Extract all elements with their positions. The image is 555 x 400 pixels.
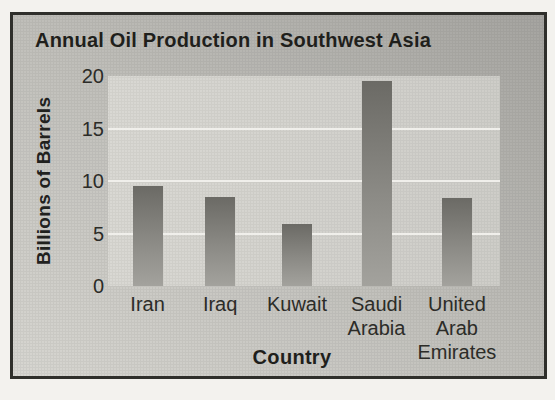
bar-kuwait [282,224,312,286]
bar-saudi-arabia [362,81,392,286]
gridline-10 [108,180,500,182]
x-label-iran: Iran [130,292,164,316]
bar-iran [133,186,163,286]
plot-area [108,76,500,286]
x-label-saudi-arabia: Saudi Arabia [348,292,406,340]
bar-iraq [205,197,235,286]
x-label-iraq: Iraq [203,292,237,316]
chart-card: Annual Oil Production in Southwest Asia … [10,12,547,379]
x-label-united-arab-emirates: United Arab Emirates [417,292,496,364]
gridline-15 [108,128,500,130]
y-tick-10: 10 [54,170,104,192]
y-tick-15: 15 [54,118,104,140]
y-tick-5: 5 [54,223,104,245]
y-tick-0: 0 [54,275,104,297]
scanned-chart-page: Annual Oil Production in Southwest Asia … [0,0,555,400]
x-axis-title: Country [253,346,332,369]
bar-united-arab-emirates [442,198,472,286]
chart-title: Annual Oil Production in Southwest Asia [35,29,431,52]
y-tick-20: 20 [54,65,104,87]
x-label-kuwait: Kuwait [267,292,327,316]
